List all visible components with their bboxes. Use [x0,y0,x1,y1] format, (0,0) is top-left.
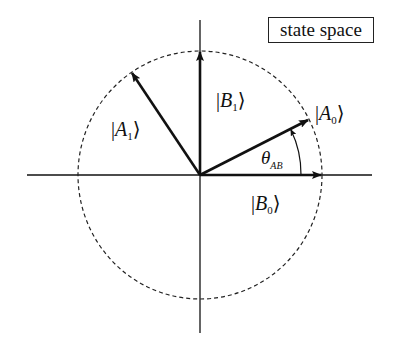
vector-A1 [132,73,200,175]
ket-B1-label: |B1⟩ [216,90,246,113]
vector-A0 [200,120,308,175]
theta-AB-label: θAB [261,147,283,171]
ket-B0-label: |B0⟩ [251,193,281,216]
state-space-label: state space [268,17,374,43]
ket-A1-label: |A1⟩ [111,119,141,142]
state-space-diagram [0,0,403,353]
theta-arc [291,130,301,175]
ket-A0-label: |A0⟩ [315,103,345,126]
